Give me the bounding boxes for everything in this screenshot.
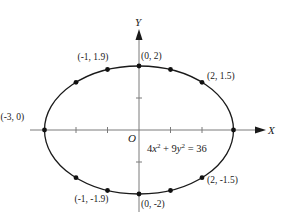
y-axis-label: Y [135, 16, 143, 28]
data-point [74, 80, 79, 85]
data-point [74, 175, 79, 180]
point-label: (0, 2) [141, 51, 162, 62]
point-label: (2, 1.5) [207, 71, 235, 82]
data-point [168, 188, 173, 193]
y-axis-arrow-icon [136, 29, 143, 40]
point-label: (0, -2) [141, 199, 165, 210]
data-point [105, 188, 110, 193]
data-point [200, 80, 205, 85]
data-point [137, 64, 142, 69]
data-point [231, 128, 236, 133]
data-point [42, 128, 47, 133]
point-label: (-1, 1.9) [78, 52, 109, 63]
point-label: (-1, -1.9) [75, 194, 109, 205]
x-axis-label: X [267, 124, 276, 136]
data-point [137, 192, 142, 197]
data-point [105, 67, 110, 72]
origin-label: O [128, 132, 136, 144]
ellipse-diagram: X Y O 4x2 + 9y2 = 36 (-3, 0)(-1, 1.9)(0,… [0, 0, 284, 222]
point-label: (2, -1.5) [207, 175, 238, 186]
x-axis-arrow-icon [255, 127, 266, 134]
equation-label: 4x2 + 9y2 = 36 [147, 142, 207, 154]
data-point [168, 67, 173, 72]
data-point [200, 175, 205, 180]
point-label: (-3, 0) [1, 112, 25, 123]
